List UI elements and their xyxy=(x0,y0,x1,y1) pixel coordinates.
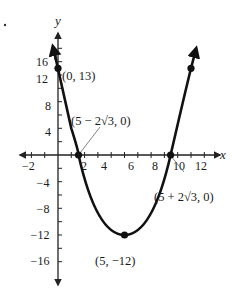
point-vertex xyxy=(121,231,128,238)
y-tick-label: −8 xyxy=(37,202,50,216)
y-tick-label: 8 xyxy=(45,99,51,113)
y-axis: y 16 12 8 4 −4 −8 −12 −16 xyxy=(31,13,62,285)
leader-line-left-root xyxy=(79,127,101,155)
y-axis-label: y xyxy=(53,13,61,28)
point-x10 xyxy=(187,65,194,72)
x-tick-label: −2 xyxy=(22,159,35,173)
x-tick-label: 8 xyxy=(152,159,158,173)
x-tick-label: 6 xyxy=(128,159,134,173)
y-tick-label: −12 xyxy=(31,228,50,242)
x-tick-label: 12 xyxy=(195,159,207,173)
label-vertex: (5, −12) xyxy=(95,254,135,268)
x-axis: x −2 2 4 6 8 10 12 xyxy=(20,147,226,173)
left-arm-arrow xyxy=(53,47,56,60)
point-right-root xyxy=(167,151,174,158)
parabola-chart: x −2 2 4 6 8 10 12 y 16 xyxy=(0,0,232,303)
y-tick-label: −16 xyxy=(31,254,50,268)
y-tick-label: 16 xyxy=(36,55,48,69)
label-right-root: (5 + 2√3, 0) xyxy=(154,190,214,204)
x-axis-label: x xyxy=(219,147,226,162)
y-tick-label: 12 xyxy=(36,72,48,86)
x-tick-label: 4 xyxy=(101,159,107,173)
point-y-intercept xyxy=(54,65,61,72)
point-left-root xyxy=(75,151,82,158)
y-tick-label: −4 xyxy=(37,176,50,190)
y-tick-label: 4 xyxy=(45,125,51,139)
label-left-root: (5 − 2√3, 0) xyxy=(71,114,131,128)
label-y-intercept: (0, 13) xyxy=(62,69,95,83)
stray-dot xyxy=(4,24,6,26)
